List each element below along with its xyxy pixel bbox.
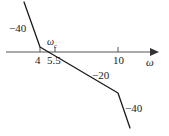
bode-asymptote-plot: −40 ωc 4 5.5 10 −20 −40 ω xyxy=(0,0,169,136)
crossover-frequency-label: ωc xyxy=(47,37,57,50)
axis-arrow-icon xyxy=(150,48,159,56)
slope-label-minus40-top: −40 xyxy=(9,23,26,34)
omega-axis-label: ω xyxy=(146,57,154,68)
slope-label-minus20: −20 xyxy=(92,70,109,81)
plot-canvas xyxy=(0,0,169,136)
tick-label-10: 10 xyxy=(113,55,124,66)
crossover-subscript: c xyxy=(54,42,57,49)
slope-label-minus40-bottom: −40 xyxy=(125,103,142,114)
tick-label-5-5: 5.5 xyxy=(47,55,61,66)
tick-label-4: 4 xyxy=(35,55,41,66)
crossover-omega-symbol: ω xyxy=(47,36,54,47)
